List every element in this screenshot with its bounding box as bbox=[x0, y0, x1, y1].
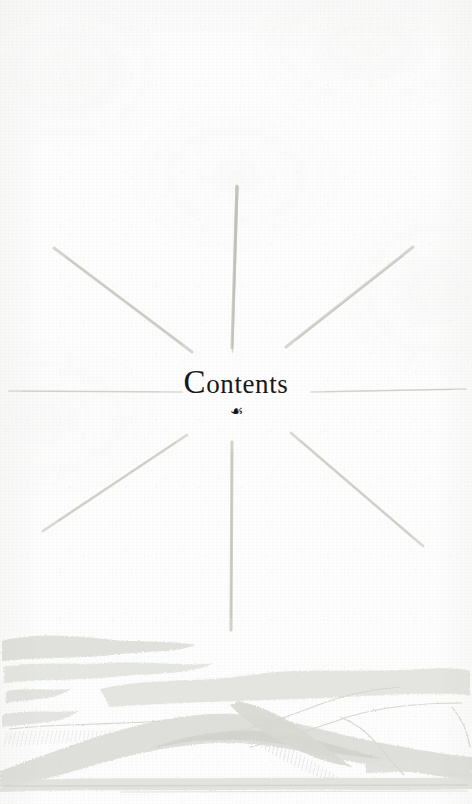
book-contents-page: Contents ☙ bbox=[0, 0, 472, 804]
aldus-leaf-fleuron-icon: ☙ bbox=[0, 404, 472, 419]
page-title-initial: C bbox=[184, 364, 207, 400]
page-title-rest: ontents bbox=[206, 369, 288, 399]
contents-heading-block: Contents ☙ bbox=[0, 366, 472, 419]
page-title: Contents bbox=[0, 366, 472, 399]
